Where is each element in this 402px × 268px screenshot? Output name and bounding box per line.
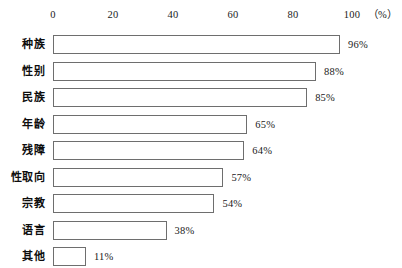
- bar-rect: [53, 168, 223, 187]
- bar-row: 语言38%: [0, 220, 402, 241]
- bar-value-label: 96%: [348, 34, 368, 55]
- bar-value-label: 57%: [231, 167, 251, 188]
- bar-category-label: 残障: [0, 140, 45, 161]
- bar-row: 性别88%: [0, 61, 402, 82]
- bar-row: 民族85%: [0, 87, 402, 108]
- axis-tick-40: 40: [168, 9, 179, 21]
- bar-rect: [53, 141, 244, 160]
- bar-category-label: 性别: [0, 61, 45, 82]
- bar-category-label: 种族: [0, 34, 45, 55]
- axis-unit-label: （%）: [368, 9, 397, 21]
- bar-rect: [53, 221, 167, 240]
- bar-category-label: 性取向: [0, 167, 45, 188]
- bar-rect: [53, 247, 86, 266]
- bar-row: 宗教54%: [0, 193, 402, 214]
- bar-value-label: 38%: [175, 220, 195, 241]
- axis-tick-80: 80: [288, 9, 299, 21]
- bar-category-label: 宗教: [0, 193, 45, 214]
- axis-tick-0: 0: [50, 9, 55, 21]
- bar-track: [53, 35, 340, 54]
- bar-value-label: 85%: [315, 87, 335, 108]
- bar-row: 残障64%: [0, 140, 402, 161]
- bar-value-label: 88%: [324, 61, 344, 82]
- bar-track: [53, 62, 316, 81]
- bar-track: [53, 141, 244, 160]
- bar-value-label: 64%: [252, 140, 272, 161]
- x-axis: 0 20 40 60 80 100 （%）: [0, 0, 402, 30]
- bar-row: 年龄65%: [0, 114, 402, 135]
- bar-row: 性取向57%: [0, 167, 402, 188]
- bar-row: 种族96%: [0, 34, 402, 55]
- bar-track: [53, 88, 307, 107]
- bar-rect: [53, 115, 247, 134]
- bar-value-label: 65%: [255, 114, 275, 135]
- bar-category-label: 其他: [0, 246, 45, 267]
- plot-area: 种族96%性别88%民族85%年龄65%残障64%性取向57%宗教54%语言38…: [0, 30, 402, 268]
- bar-rect: [53, 194, 214, 213]
- bar-value-label: 11%: [94, 246, 113, 267]
- axis-tick-100: 100: [344, 9, 360, 21]
- axis-tick-60: 60: [228, 9, 239, 21]
- axis-tick-20: 20: [108, 9, 119, 21]
- bar-row: 其他11%: [0, 246, 402, 267]
- bar-category-label: 民族: [0, 87, 45, 108]
- bar-chart: 0 20 40 60 80 100 （%） 种族96%性别88%民族85%年龄6…: [0, 0, 402, 268]
- bar-track: [53, 194, 214, 213]
- bar-rect: [53, 62, 316, 81]
- bar-rect: [53, 35, 340, 54]
- bar-value-label: 54%: [222, 193, 242, 214]
- bar-category-label: 年龄: [0, 114, 45, 135]
- bar-track: [53, 247, 86, 266]
- bar-track: [53, 221, 167, 240]
- bar-category-label: 语言: [0, 220, 45, 241]
- bar-track: [53, 168, 223, 187]
- bar-track: [53, 115, 247, 134]
- bar-rect: [53, 88, 307, 107]
